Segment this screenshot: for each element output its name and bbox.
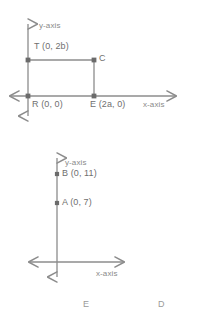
plot-point-a (55, 201, 59, 205)
top-diagram-vertices (26, 58, 97, 99)
label-point-r: R (0, 0) (32, 100, 63, 109)
choice-label-d[interactable]: D (158, 300, 165, 309)
label-point-e: E (2a, 0) (90, 100, 125, 109)
vertex-point-e (92, 94, 97, 99)
coordinate-plane-diagrams (0, 0, 206, 315)
plot-point-b (55, 172, 59, 176)
vertex-point-c (92, 58, 97, 63)
label-point-c: C (99, 54, 106, 63)
label-point-b: B (0, 11) (62, 169, 97, 178)
label-point-t: T (0, 2b) (34, 42, 69, 51)
choice-label-e[interactable]: E (83, 300, 89, 309)
top-diagram-rectangle (28, 60, 94, 96)
label-point-a: A (0, 7) (62, 198, 92, 207)
bottom-x-axis-label: x-axis (96, 270, 118, 278)
vertex-point-t (26, 58, 31, 63)
top-x-axis-label: x-axis (143, 101, 165, 109)
bottom-y-axis-label: y-axis (65, 159, 87, 167)
top-y-axis-label: y-axis (39, 22, 61, 30)
math-figure-container: y-axis T (0, 2b) C R (0, 0) E (2a, 0) x-… (0, 0, 206, 315)
vertex-point-r (26, 94, 31, 99)
